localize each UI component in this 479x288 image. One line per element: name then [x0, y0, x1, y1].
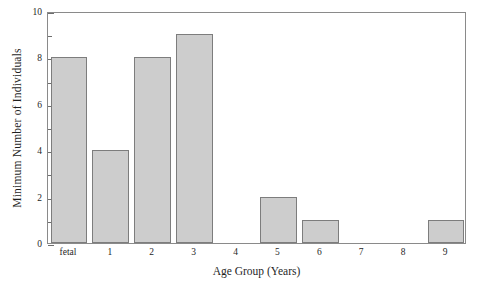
bar-slot — [216, 13, 258, 243]
y-tick-label: 8 — [22, 53, 42, 63]
x-tick-label: 2 — [131, 247, 173, 257]
bar-slot — [299, 13, 341, 243]
bar-slot — [132, 13, 174, 243]
bar — [51, 57, 88, 243]
x-tick-label: 6 — [298, 247, 340, 257]
x-tick-label: 9 — [424, 247, 466, 257]
bar — [302, 220, 339, 243]
x-tick-label: 1 — [89, 247, 131, 257]
x-tick-label: 8 — [382, 247, 424, 257]
bar — [92, 150, 129, 243]
x-axis-title: Age Group (Years) — [47, 265, 466, 277]
y-tick-major — [48, 245, 54, 246]
y-axis-tick-labels: 0246810 — [22, 0, 42, 288]
bar-slot — [48, 13, 90, 243]
y-tick-label: 0 — [22, 239, 42, 249]
x-tick-label: fetal — [47, 247, 89, 257]
bar — [134, 57, 171, 243]
bar-slot — [383, 13, 425, 243]
x-tick-label: 5 — [257, 247, 299, 257]
y-tick-label: 10 — [22, 7, 42, 17]
y-tick-label: 2 — [22, 193, 42, 203]
bar — [260, 197, 297, 243]
x-axis-tick-labels: fetal123456789 — [47, 247, 466, 263]
x-tick-label: 7 — [340, 247, 382, 257]
plot-area — [47, 12, 466, 244]
bar-slot — [341, 13, 383, 243]
bar-slot — [258, 13, 300, 243]
x-tick-label: 3 — [173, 247, 215, 257]
bar-series — [48, 13, 465, 243]
x-tick-label: 4 — [215, 247, 257, 257]
bar-slot — [90, 13, 132, 243]
bar — [428, 220, 465, 243]
bar — [176, 34, 213, 243]
bar-chart-figure: Minimum Number of Individuals 0246810 fe… — [0, 0, 479, 288]
bar-slot — [174, 13, 216, 243]
y-tick-label: 6 — [22, 100, 42, 110]
y-tick-label: 4 — [22, 146, 42, 156]
bar-slot — [425, 13, 467, 243]
